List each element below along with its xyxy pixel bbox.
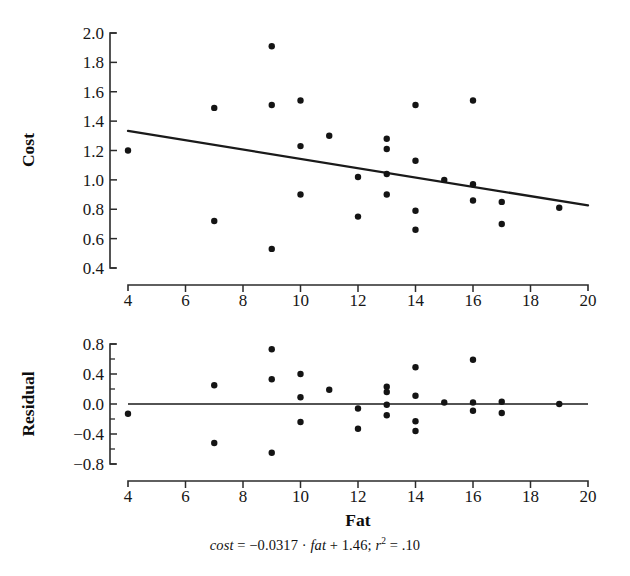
data-point — [412, 227, 418, 233]
data-point — [384, 136, 390, 142]
data-point — [326, 133, 332, 139]
y-tick-label-cost-vs-fat-8: 2.0 — [83, 24, 104, 43]
data-point — [412, 418, 418, 424]
y-axis-title-residual-vs-fat: Residual — [18, 371, 38, 436]
data-point — [297, 371, 303, 377]
y-tick-label-residual-vs-fat-0: −0.8 — [73, 455, 104, 474]
data-point — [499, 410, 505, 416]
data-point — [384, 412, 390, 418]
data-point — [355, 213, 361, 219]
data-point — [269, 376, 275, 382]
x-tick-label-residual-vs-fat-6: 16 — [465, 487, 482, 506]
data-point — [499, 221, 505, 227]
data-point — [470, 97, 476, 103]
panel-residual-vs-fat: −0.8−0.40.00.40.8Residual468101214161820… — [18, 335, 597, 530]
panel-cost-vs-fat: 0.40.60.81.01.21.41.61.82.0Cost468101214… — [18, 24, 597, 310]
data-point — [412, 428, 418, 434]
x-tick-label-cost-vs-fat-5: 14 — [407, 291, 425, 310]
data-point — [412, 158, 418, 164]
data-point — [412, 393, 418, 399]
x-tick-label-cost-vs-fat-7: 18 — [522, 291, 539, 310]
data-point — [412, 364, 418, 370]
data-point — [269, 43, 275, 49]
data-point — [269, 246, 275, 252]
y-tick-label-cost-vs-fat-2: 0.8 — [83, 200, 104, 219]
data-point — [355, 405, 361, 411]
data-point — [470, 197, 476, 203]
x-tick-label-residual-vs-fat-8: 20 — [580, 487, 597, 506]
data-point — [384, 402, 390, 408]
x-tick-label-residual-vs-fat-5: 14 — [407, 487, 425, 506]
x-tick-label-residual-vs-fat-1: 6 — [181, 487, 190, 506]
data-point — [269, 102, 275, 108]
regression-line — [128, 131, 588, 205]
data-point — [470, 408, 476, 414]
data-point — [297, 394, 303, 400]
caption-equation-middle: = −0.0317 · — [234, 537, 311, 553]
x-tick-label-residual-vs-fat-3: 10 — [292, 487, 309, 506]
y-tick-label-cost-vs-fat-6: 1.6 — [83, 83, 104, 102]
y-tick-label-cost-vs-fat-5: 1.4 — [83, 112, 105, 131]
data-point — [211, 218, 217, 224]
data-point — [384, 146, 390, 152]
data-point — [441, 399, 447, 405]
data-point — [269, 450, 275, 456]
y-tick-label-residual-vs-fat-3: 0.4 — [83, 365, 105, 384]
data-point — [355, 174, 361, 180]
data-point — [297, 97, 303, 103]
data-point — [211, 382, 217, 388]
data-point — [125, 147, 131, 153]
y-tick-label-cost-vs-fat-0: 0.4 — [83, 259, 105, 278]
caption-stat-value: = .10 — [386, 537, 420, 553]
data-point — [556, 205, 562, 211]
data-point — [297, 419, 303, 425]
data-point — [470, 181, 476, 187]
data-point — [470, 357, 476, 363]
y-tick-label-cost-vs-fat-7: 1.8 — [83, 53, 104, 72]
x-tick-label-cost-vs-fat-6: 16 — [465, 291, 482, 310]
data-point — [384, 191, 390, 197]
x-tick-label-residual-vs-fat-0: 4 — [124, 487, 133, 506]
data-point — [441, 177, 447, 183]
data-point — [211, 440, 217, 446]
x-tick-label-cost-vs-fat-1: 6 — [181, 291, 190, 310]
x-axis-title-residual-vs-fat: Fat — [345, 510, 370, 530]
x-tick-label-cost-vs-fat-4: 12 — [350, 291, 367, 310]
y-tick-label-residual-vs-fat-1: −0.4 — [73, 425, 104, 444]
caption-equation-tail: + 1.46; — [326, 537, 375, 553]
data-point — [269, 346, 275, 352]
y-tick-label-residual-vs-fat-4: 0.8 — [83, 335, 104, 354]
x-tick-label-residual-vs-fat-2: 8 — [239, 487, 248, 506]
y-tick-label-residual-vs-fat-2: 0.0 — [83, 395, 104, 414]
x-tick-label-cost-vs-fat-2: 8 — [239, 291, 248, 310]
figure-container: 0.40.60.81.01.21.41.61.82.0Cost468101214… — [0, 0, 630, 576]
x-tick-label-residual-vs-fat-4: 12 — [350, 487, 367, 506]
y-axis-title-cost-vs-fat: Cost — [18, 133, 38, 167]
y-tick-label-cost-vs-fat-3: 1.0 — [83, 171, 104, 190]
caption-var-fat: fat — [310, 537, 326, 553]
data-point — [384, 171, 390, 177]
data-point — [412, 208, 418, 214]
x-tick-label-residual-vs-fat-7: 18 — [522, 487, 539, 506]
data-point — [125, 411, 131, 417]
data-point — [412, 102, 418, 108]
data-point — [326, 387, 332, 393]
data-point — [297, 191, 303, 197]
data-point — [384, 389, 390, 395]
x-tick-label-cost-vs-fat-0: 4 — [124, 291, 133, 310]
y-tick-label-cost-vs-fat-1: 0.6 — [83, 230, 104, 249]
data-point — [556, 401, 562, 407]
data-point — [499, 199, 505, 205]
data-point — [499, 399, 505, 405]
data-point — [211, 105, 217, 111]
figure-caption: cost = −0.0317 · fat + 1.46; r2 = .10 — [0, 536, 630, 554]
data-point — [470, 399, 476, 405]
data-point — [297, 143, 303, 149]
data-point — [355, 426, 361, 432]
y-tick-label-cost-vs-fat-4: 1.2 — [83, 142, 104, 161]
x-tick-label-cost-vs-fat-3: 10 — [292, 291, 309, 310]
caption-var-cost: cost — [210, 537, 234, 553]
scatter-plot-figure: 0.40.60.81.01.21.41.61.82.0Cost468101214… — [0, 0, 630, 576]
x-tick-label-cost-vs-fat-8: 20 — [580, 291, 597, 310]
